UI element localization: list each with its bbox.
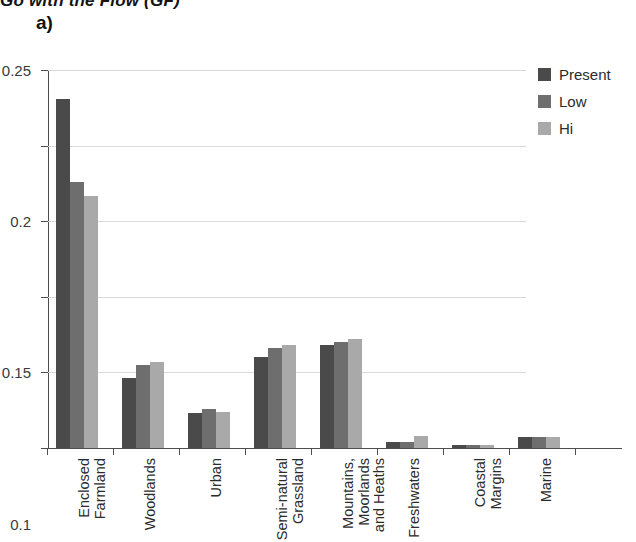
bar bbox=[56, 99, 70, 448]
bar bbox=[480, 445, 494, 448]
x-axis-tick bbox=[443, 448, 444, 455]
bar bbox=[254, 357, 268, 448]
y-axis-tick-label: 0.1 bbox=[10, 515, 31, 532]
x-axis-category-label: Semi-naturalGrassland bbox=[275, 458, 306, 540]
x-axis-category-label: Marine bbox=[539, 458, 555, 502]
bar-group bbox=[122, 70, 164, 448]
x-axis-tick bbox=[509, 448, 510, 455]
bar bbox=[400, 442, 414, 448]
x-axis-category-label: Mountains,Moorlandsand Heaths bbox=[341, 458, 388, 532]
legend-item: Low bbox=[538, 90, 611, 112]
x-axis-line bbox=[48, 448, 622, 449]
legend-item-label: Present bbox=[559, 66, 611, 83]
legend-item-label: Hi bbox=[559, 120, 573, 137]
x-axis-tick bbox=[245, 448, 246, 455]
bar bbox=[268, 348, 282, 448]
bar-group bbox=[188, 70, 230, 448]
legend-item-label: Low bbox=[559, 93, 587, 110]
x-axis-category-label: EnclosedFarmland bbox=[77, 458, 108, 519]
y-axis-tick-label: 0.25 bbox=[2, 62, 31, 79]
legend-item: Present bbox=[538, 63, 611, 85]
y-axis-tick-label: 0.2 bbox=[10, 213, 31, 230]
x-axis-tick bbox=[377, 448, 378, 455]
bar bbox=[532, 437, 546, 448]
x-axis-tick bbox=[179, 448, 180, 455]
bar-group bbox=[56, 70, 98, 448]
y-axis-tick: 0.2 bbox=[41, 146, 48, 147]
cropped-running-header: Go with the Flow (GF) bbox=[0, 0, 380, 13]
x-axis-category-label: Freshwaters bbox=[407, 458, 423, 538]
x-axis-tick bbox=[575, 448, 576, 455]
legend-swatch-icon bbox=[538, 68, 551, 81]
legend-item: Hi bbox=[538, 117, 611, 139]
bar bbox=[188, 413, 202, 448]
y-axis-tick: 0.15 bbox=[41, 221, 48, 222]
bar bbox=[386, 442, 400, 448]
bar bbox=[518, 437, 532, 448]
y-axis-tick: 0.05 bbox=[41, 372, 48, 373]
legend-swatch-icon bbox=[538, 95, 551, 108]
bar-group bbox=[452, 70, 494, 448]
bar bbox=[546, 437, 560, 448]
bar-group bbox=[254, 70, 296, 448]
bar bbox=[414, 436, 428, 448]
y-axis-tick: 0.1 bbox=[41, 297, 48, 298]
bar-group bbox=[386, 70, 428, 448]
panel-letter: a) bbox=[36, 12, 53, 34]
bar bbox=[136, 365, 150, 448]
x-axis-category-label: CoastalMargins bbox=[473, 458, 504, 510]
x-axis-tick bbox=[311, 448, 312, 455]
chart-figure: Go with the Flow (GF) a) 00.050.10.150.2… bbox=[0, 0, 636, 542]
bar bbox=[122, 378, 136, 448]
plot-area: 00.050.10.150.20.25 bbox=[48, 70, 526, 448]
bar bbox=[70, 182, 84, 448]
bar bbox=[150, 362, 164, 448]
bar bbox=[216, 412, 230, 448]
bar bbox=[320, 345, 334, 448]
chart-legend: PresentLowHi bbox=[538, 63, 611, 144]
x-axis-tick bbox=[47, 448, 48, 455]
bar bbox=[202, 409, 216, 448]
bar bbox=[466, 445, 480, 448]
bar bbox=[348, 339, 362, 448]
x-axis-category-label: Urban bbox=[209, 458, 225, 498]
bar bbox=[334, 342, 348, 448]
x-axis-tick bbox=[113, 448, 114, 455]
bar bbox=[84, 196, 98, 449]
bar bbox=[282, 345, 296, 448]
y-axis-tick: 0.25 bbox=[41, 70, 48, 71]
bar bbox=[452, 445, 466, 448]
y-axis-tick-label: 0.15 bbox=[2, 364, 31, 381]
x-axis-category-label: Woodlands bbox=[143, 458, 159, 530]
legend-swatch-icon bbox=[538, 122, 551, 135]
bar-group bbox=[320, 70, 362, 448]
